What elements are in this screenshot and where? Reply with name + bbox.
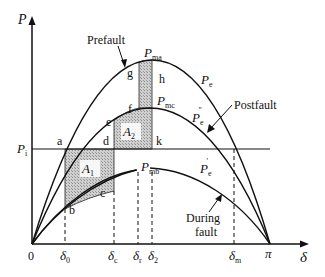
deltac-tick-label: δc (108, 248, 118, 265)
pmb-label: Pmb (140, 159, 159, 176)
point-e-label: e (106, 115, 111, 129)
point-g-label: g (127, 66, 133, 80)
postfault-annotation: Postfault (234, 98, 277, 112)
during-fault-annotation-line2: fault (195, 225, 218, 239)
prefault-annotation: Prefault (87, 33, 126, 47)
deltam-tick-label: δm (229, 248, 242, 265)
point-d-label: d (103, 134, 109, 148)
delta-axis-label: δ (300, 249, 308, 265)
delta0-tick-label: δ0 (60, 248, 70, 265)
origin-label: 0 (28, 249, 34, 263)
postfault-pointer (211, 105, 232, 128)
deltar-tick-label: δr (133, 248, 142, 265)
pmc-label: Pmc (156, 93, 175, 110)
pma-label: Pma (143, 45, 162, 62)
pi-tick-label: π (265, 246, 272, 261)
point-c-label: c (100, 186, 105, 200)
p-axis-label: P (17, 12, 27, 27)
delta-axis-arrow-icon (300, 241, 309, 248)
point-b-label: b (69, 203, 75, 217)
during-fault-curve-label: Pe' (199, 157, 212, 178)
pi-line-label: Pi (16, 141, 28, 158)
point-a-label: a (57, 134, 63, 148)
p-axis-arrow-icon (29, 16, 36, 25)
postfault-curve-label: Pe" (191, 106, 204, 127)
point-h-label: h (159, 72, 165, 86)
during-fault-pointer-arrow-icon (215, 194, 222, 202)
point-k-label: k (156, 134, 162, 148)
prefault-curve-label: Pe (200, 72, 213, 89)
power-angle-diagram: P δ 0 π Pi δ0 δc δr δ2 δm Prefault Pma P… (0, 0, 325, 277)
point-f-label: f (128, 102, 132, 116)
delta2-tick-label: δ2 (148, 248, 158, 265)
during-fault-annotation-line1: During (186, 211, 220, 225)
area-strip-shading (139, 60, 152, 108)
